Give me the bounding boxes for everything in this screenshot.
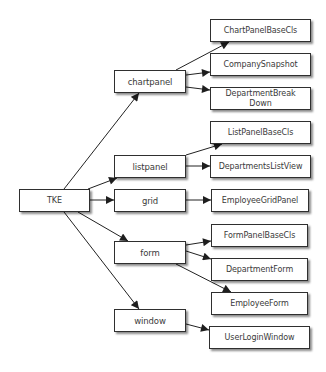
node-tke: TKE [19, 189, 90, 212]
node-label: form [140, 248, 159, 258]
edge-chartpanel-to-departmentbreakdown [186, 87, 210, 90]
node-label: DepartmentBreak Down [226, 89, 296, 109]
edge-window-to-userloginwindow [186, 324, 209, 330]
node-chartpanel: chartpanel [114, 70, 186, 93]
node-label: FormPanelBaseCls [224, 231, 296, 241]
edge-chartpanel-to-companysnapshot [186, 72, 210, 75]
node-departmentform: DepartmentForm [211, 258, 308, 281]
node-label: ListPanelBaseCls [228, 128, 293, 138]
node-form: form [114, 241, 186, 264]
edge-tke-to-form [78, 212, 128, 241]
node-label: CompanySnapshot [224, 60, 298, 70]
node-label: window [134, 316, 166, 326]
node-label: DepartmentsListView [219, 162, 303, 172]
node-label: grid [142, 196, 158, 206]
node-listpanel: listpanel [114, 155, 186, 178]
node-label: TKE [47, 196, 62, 206]
node-employeeform: EmployeeForm [211, 292, 308, 315]
node-employeegridpanel: EmployeeGridPanel [211, 189, 309, 212]
node-window: window [114, 309, 186, 332]
node-label: ChartPanelBaseCls [224, 26, 297, 36]
node-grid: grid [114, 189, 186, 212]
node-label: EmployeeForm [230, 299, 289, 309]
edge-listpanel-to-listpanelbasecls [186, 144, 222, 155]
node-label: UserLoginWindow [225, 333, 295, 343]
node-label: DepartmentForm [226, 265, 293, 275]
node-listpanelbasecls: ListPanelBaseCls [210, 121, 311, 144]
node-departmentslistview: DepartmentsListView [210, 155, 311, 178]
node-chartpanelbasecls: ChartPanelBaseCls [210, 19, 311, 42]
node-userloginwindow: UserLoginWindow [209, 326, 310, 349]
edge-tke-to-listpanel [88, 178, 117, 189]
namespace-diagram: TKE chartpanel listpanel grid form windo… [0, 0, 326, 372]
edge-form-to-formpanelbasecls [186, 241, 211, 245]
node-label: EmployeeGridPanel [222, 196, 298, 206]
node-label: chartpanel [128, 77, 173, 87]
edge-form-to-departmentform [186, 251, 211, 259]
node-companysnapshot: CompanySnapshot [210, 53, 311, 76]
node-departmentbreakdown: DepartmentBreak Down [210, 87, 311, 110]
node-formpanelbasecls: FormPanelBaseCls [211, 224, 308, 247]
node-label: listpanel [132, 162, 167, 172]
